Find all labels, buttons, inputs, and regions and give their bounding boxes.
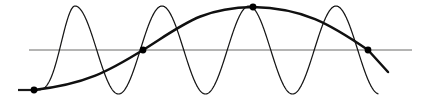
ascending-crossing-point xyxy=(140,47,147,54)
apex-tangency-point xyxy=(250,4,257,11)
plot-background xyxy=(0,0,421,106)
figure-container xyxy=(0,0,421,106)
descending-crossing-point xyxy=(365,47,372,54)
plot-svg xyxy=(0,0,421,106)
left-anchor-point xyxy=(31,87,38,94)
